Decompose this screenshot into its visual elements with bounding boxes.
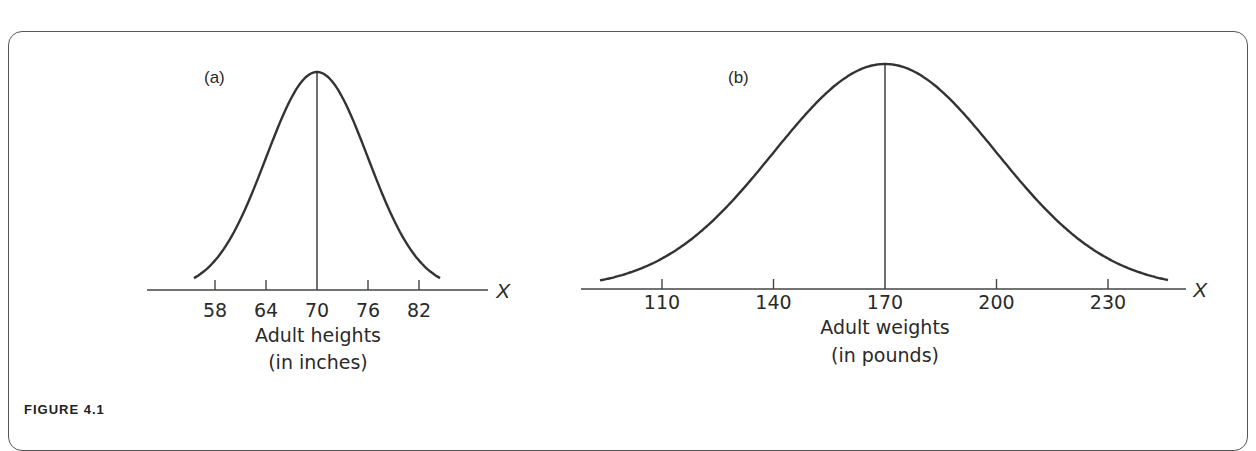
x-axis-units-a: (in inches) [268, 351, 368, 373]
x-tick-label: 76 [356, 299, 380, 321]
x-tick-label: 82 [407, 299, 431, 321]
x-tick-label: 70 [305, 299, 329, 321]
panel-label-b: (b) [728, 68, 749, 87]
x-tick-label: 170 [867, 291, 903, 313]
x-tick-label: 64 [254, 299, 278, 321]
x-tick-label: 230 [1090, 291, 1126, 313]
x-axis-title-b: Adult weights [820, 316, 950, 338]
panel-label-a: (a) [204, 68, 225, 87]
chart-b: (b) 110140170200230 X Adult weights (in … [581, 64, 1208, 366]
x-tick-label: 140 [755, 291, 791, 313]
figure-caption: FIGURE 4.1 [24, 402, 105, 417]
x-variable-b: X [1192, 278, 1208, 301]
x-axis-units-b: (in pounds) [831, 344, 939, 366]
x-tick-label: 110 [644, 291, 680, 313]
normal-curve-b [600, 64, 1168, 280]
chart-a: (a) 5864707682 X Adult heights (in inche… [147, 68, 511, 373]
x-tick-label: 200 [978, 291, 1014, 313]
x-axis-title-a: Adult heights [255, 324, 381, 346]
x-variable-a: X [495, 279, 511, 302]
x-tick-label: 58 [203, 299, 227, 321]
